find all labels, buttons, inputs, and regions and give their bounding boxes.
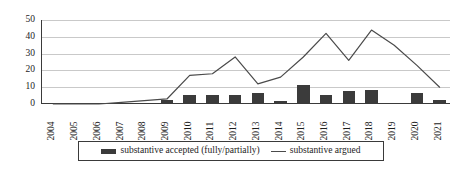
- x-tick-label-2004: 2004: [47, 121, 57, 140]
- x-tick-label-2006: 2006: [92, 121, 102, 140]
- y-tick-label-10: 10: [26, 82, 36, 92]
- legend-item-substantive-accepted: substantive accepted (fully/partially): [101, 146, 259, 156]
- x-tick-label-2009: 2009: [160, 121, 170, 140]
- line-swatch-icon: [271, 151, 286, 152]
- x-tick-label-2007: 2007: [115, 121, 125, 140]
- y-axis-labels: 01020304050: [0, 20, 38, 104]
- x-tick-label-2010: 2010: [183, 121, 193, 140]
- chart-legend: substantive accepted (fully/partially) s…: [78, 141, 384, 161]
- legend-label-substantive-accepted: substantive accepted (fully/partially): [120, 146, 259, 156]
- y-tick-label-40: 40: [26, 32, 36, 42]
- x-tick-label-2018: 2018: [365, 121, 375, 140]
- legend-item-substantive-argued: substantive argued: [271, 146, 361, 156]
- x-tick-label-2019: 2019: [388, 121, 398, 140]
- y-tick-label-50: 50: [26, 15, 36, 25]
- x-tick-label-2008: 2008: [138, 121, 148, 140]
- y-tick-label-20: 20: [26, 66, 36, 76]
- x-tick-label-2013: 2013: [251, 121, 261, 140]
- x-axis-labels: 2004200520062007200820092010201120122013…: [41, 106, 450, 140]
- plot-area: [41, 20, 450, 104]
- x-tick-label-2012: 2012: [229, 121, 239, 140]
- line-series-substantive-argued: [42, 20, 451, 104]
- x-tick-label-2016: 2016: [320, 121, 330, 140]
- series-layer: [42, 20, 450, 103]
- bar-swatch-icon: [101, 149, 116, 154]
- x-tick-label-2005: 2005: [70, 121, 80, 140]
- x-tick-label-2014: 2014: [274, 121, 284, 140]
- legend-label-substantive-argued: substantive argued: [290, 146, 361, 156]
- y-tick-label-0: 0: [30, 99, 35, 109]
- x-tick-label-2015: 2015: [297, 121, 307, 140]
- x-tick-label-2011: 2011: [206, 121, 216, 140]
- x-tick-label-2017: 2017: [342, 121, 352, 140]
- chart-container: 01020304050 2004200520062007200820092010…: [0, 0, 461, 171]
- x-tick-label-2020: 2020: [410, 121, 420, 140]
- x-tick-label-2021: 2021: [433, 121, 443, 140]
- y-tick-label-30: 30: [26, 49, 36, 59]
